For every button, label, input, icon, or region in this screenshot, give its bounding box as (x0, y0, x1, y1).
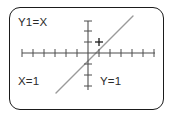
y-axis (84, 21, 92, 90)
cursor-y-readout: Y=1 (100, 75, 121, 87)
trace-cursor-icon[interactable] (95, 38, 103, 46)
graphing-calculator-screen: Y1=X X=1 Y=1 (0, 0, 176, 120)
function-expression-label: Y1=X (18, 16, 47, 28)
cursor-x-readout: X=1 (18, 75, 39, 87)
